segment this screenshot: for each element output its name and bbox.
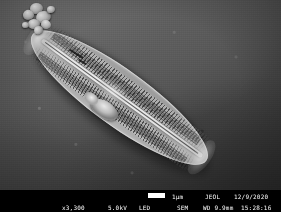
debris-cluster [22, 2, 62, 36]
diatom-specimen [0, 0, 281, 190]
diatom-valve [16, 12, 223, 184]
acquisition-time: 15:28:16 [241, 203, 272, 212]
sem-info-bar: 1µm JEOL 12/9/2020 x3,300 5.0kV LED SEM … [0, 190, 281, 212]
working-distance-value: WD 9.9mm [203, 203, 234, 212]
valve-rim [16, 12, 223, 184]
imaging-mode-label: SEM [177, 203, 188, 212]
debris-particle [47, 6, 55, 13]
sem-micrograph-screenshot: 1µm JEOL 12/9/2020 x3,300 5.0kV LED SEM … [0, 0, 281, 212]
detector-label: LED [139, 203, 150, 212]
magnification-value: x3,300 [62, 203, 85, 212]
accelerating-voltage: 5.0kV [108, 203, 127, 212]
scale-bar [148, 193, 165, 198]
debris-particle [22, 22, 29, 28]
info-bar-row-bottom: x3,300 5.0kV LED SEM WD 9.9mm 15:28:16 [0, 201, 281, 212]
micrograph-image-area [0, 0, 281, 190]
info-bar-row-top: 1µm JEOL 12/9/2020 [0, 190, 281, 201]
